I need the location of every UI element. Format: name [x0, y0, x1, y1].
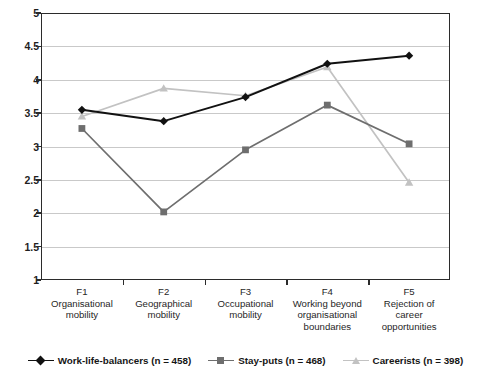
y-tick-label: 2	[0, 208, 39, 219]
x-tick-mark	[368, 280, 370, 285]
y-tick-label: 4.5	[0, 41, 39, 52]
line-chart: 11.522.533.544.55 F1Organisationalmobili…	[0, 0, 491, 375]
legend-swatch-icon	[28, 355, 54, 365]
gridline	[42, 213, 449, 214]
y-tick-label: 1	[0, 275, 39, 286]
x-tick-mark	[286, 280, 288, 285]
gridline	[42, 247, 449, 248]
x-axis-labels: F1OrganisationalmobilityF2Geographicalmo…	[41, 286, 450, 344]
y-tick-label: 3.5	[0, 108, 39, 119]
y-tick-mark	[36, 212, 41, 214]
y-tick-label: 4	[0, 75, 39, 86]
legend-swatch-icon	[208, 355, 234, 365]
x-axis-label-text: Rejection of	[359, 298, 459, 310]
legend-item-careerists[interactable]: Careerists (n = 398)	[343, 355, 464, 366]
y-tick-mark	[36, 79, 41, 81]
legend-label: Careerists (n = 398)	[373, 355, 464, 366]
x-axis-label-text: career	[359, 309, 459, 321]
gridline	[42, 46, 449, 47]
gridline	[42, 147, 449, 148]
x-axis-label-f5: F5Rejection ofcareeropportunities	[359, 286, 459, 332]
y-tick-mark	[36, 46, 41, 48]
plot-area	[41, 13, 450, 280]
gridline	[42, 113, 449, 114]
legend-item-stay-puts[interactable]: Stay-puts (n = 468)	[208, 355, 325, 366]
x-axis-label-text: opportunities	[359, 321, 459, 333]
y-tick-mark	[36, 146, 41, 148]
gridline	[42, 80, 449, 81]
y-tick-mark	[36, 246, 41, 248]
chart-legend: Work-life-balancers (n = 458)Stay-puts (…	[0, 350, 491, 370]
y-tick-label: 1.5	[0, 242, 39, 253]
x-axis-label-code: F5	[359, 286, 459, 298]
y-tick-label: 5	[0, 8, 39, 19]
legend-item-work-life-balancers[interactable]: Work-life-balancers (n = 458)	[28, 355, 191, 366]
legend-swatch-icon	[343, 355, 369, 365]
legend-label: Stay-puts (n = 468)	[238, 355, 325, 366]
y-tick-mark	[36, 112, 41, 114]
legend-label: Work-life-balancers (n = 458)	[58, 355, 191, 366]
x-tick-mark	[123, 280, 125, 285]
y-tick-mark	[36, 12, 41, 14]
gridline	[42, 180, 449, 181]
y-tick-mark	[36, 179, 41, 181]
y-tick-label: 2.5	[0, 175, 39, 186]
y-tick-label: 3	[0, 142, 39, 153]
y-tick-mark	[36, 279, 41, 281]
x-tick-mark	[205, 280, 207, 285]
